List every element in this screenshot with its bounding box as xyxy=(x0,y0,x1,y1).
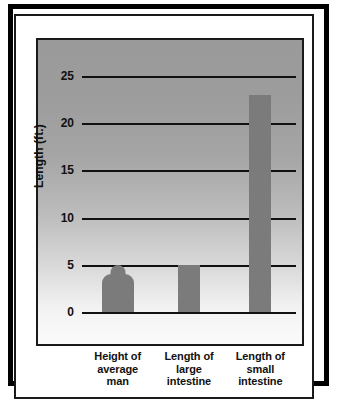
person-legs xyxy=(111,290,125,312)
plot-area: 0510152025 xyxy=(36,38,304,346)
y-tick-label-15: 15 xyxy=(44,163,74,177)
x-axis-label-line: small xyxy=(225,363,296,376)
y-tick-label-20: 20 xyxy=(44,116,74,130)
x-axis-labels: Height ofaveragemanLength oflargeintesti… xyxy=(36,348,304,388)
x-axis-label-line: large xyxy=(153,363,224,376)
bar-chart: 0510152025 Length (ft.) Height ofaverage… xyxy=(36,38,304,386)
y-tick-label-25: 25 xyxy=(44,69,74,83)
x-axis-label-line: Length of xyxy=(225,350,296,363)
gridline-25 xyxy=(82,76,296,78)
y-tick-label-10: 10 xyxy=(44,211,74,225)
x-axis-label-1: Length oflargeintestine xyxy=(153,350,224,388)
x-axis-label-line: average xyxy=(82,363,153,376)
x-axis-label-2: Length ofsmallintestine xyxy=(225,350,296,388)
x-axis-label-line: intestine xyxy=(225,375,296,388)
y-tick-label-5: 5 xyxy=(44,258,74,272)
person-head xyxy=(110,265,125,280)
x-axis-label-line: man xyxy=(82,375,153,388)
bar-2 xyxy=(249,95,271,312)
gridline-0 xyxy=(82,312,296,314)
x-axis-label-line: intestine xyxy=(153,375,224,388)
bar-1 xyxy=(178,265,200,312)
page-root: 0510152025 Length (ft.) Height ofaverage… xyxy=(0,0,337,411)
x-axis-label-line: Height of xyxy=(82,350,153,363)
y-tick-label-0: 0 xyxy=(44,305,74,319)
x-axis-label-line: Length of xyxy=(153,350,224,363)
plot-inner: 0510152025 xyxy=(38,40,302,344)
x-axis-label-0: Height ofaverageman xyxy=(82,350,153,388)
y-axis-title: Length (ft.) xyxy=(32,68,46,188)
chart-card: 0510152025 Length (ft.) Height ofaverage… xyxy=(14,14,314,399)
